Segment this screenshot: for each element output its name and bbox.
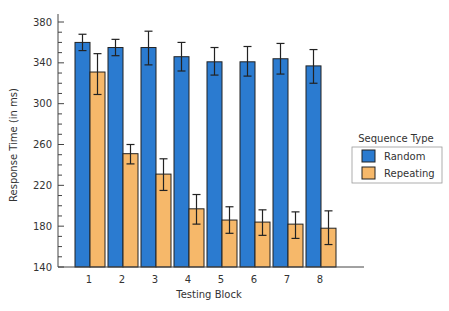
bar-repeating-1	[90, 72, 105, 267]
legend-label-random: Random	[384, 151, 425, 162]
bar-chart: 140180220260300340380 12345678 Testing B…	[0, 0, 449, 311]
bar-random-4	[174, 57, 189, 267]
bar-random-3	[141, 48, 156, 267]
bar-random-2	[108, 48, 123, 267]
bars-layer	[75, 31, 336, 267]
y-tick-label: 220	[33, 180, 52, 191]
bar-random-8	[306, 66, 321, 267]
x-tick-label: 2	[119, 274, 125, 285]
y-tick-label: 260	[33, 139, 52, 150]
bar-random-1	[75, 42, 90, 267]
y-tick-label: 340	[33, 57, 52, 68]
y-ticks: 140180220260300340380	[33, 17, 64, 273]
legend-title: Sequence Type	[358, 133, 433, 144]
y-axis-title: Response Time (in ms)	[8, 88, 19, 202]
x-tick-label: 7	[284, 274, 290, 285]
legend-swatch-repeating	[362, 167, 375, 179]
bar-random-7	[273, 59, 288, 267]
x-tick-label: 4	[185, 274, 191, 285]
bar-random-6	[240, 62, 255, 267]
x-tick-label: 3	[152, 274, 158, 285]
x-ticks: 12345678	[86, 274, 323, 285]
bar-random-5	[207, 62, 222, 267]
y-tick-label: 300	[33, 98, 52, 109]
legend-label-repeating: Repeating	[384, 168, 435, 179]
bar-repeating-2	[123, 154, 138, 267]
x-tick-label: 1	[86, 274, 92, 285]
y-tick-label: 140	[33, 262, 52, 273]
x-tick-label: 8	[317, 274, 323, 285]
legend-swatch-random	[362, 150, 375, 162]
legend: Sequence Type Random Repeating	[352, 133, 442, 183]
x-axis-title: Testing Block	[175, 289, 242, 300]
y-tick-label: 380	[33, 17, 52, 28]
x-tick-label: 5	[218, 274, 224, 285]
y-tick-label: 180	[33, 221, 52, 232]
x-tick-label: 6	[251, 274, 257, 285]
